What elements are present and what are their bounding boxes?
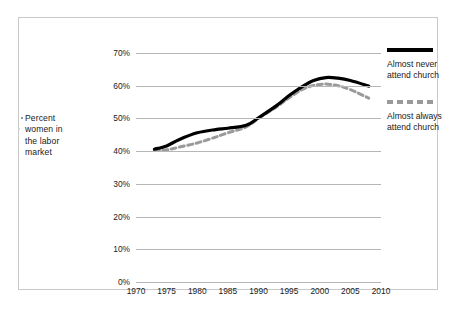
y-tick-label: 10% (113, 244, 130, 254)
y-axis-title-line-2: women in (25, 124, 87, 135)
series-lines (136, 53, 381, 282)
gridline (136, 282, 381, 283)
gridline (136, 217, 381, 218)
x-tick-label: 1980 (188, 286, 207, 296)
y-tick-label: 50% (113, 113, 130, 123)
gridline (136, 53, 381, 54)
x-tick-label: 1995 (280, 286, 299, 296)
legend-label-almost-always: Almost always attend church (387, 111, 456, 134)
y-tick-label: 60% (113, 81, 130, 91)
y-axis-title-line-1: Percent (25, 113, 87, 124)
page-speckle (18, 128, 20, 130)
legend-entry-almost-always: Almost always attend church (387, 100, 456, 134)
y-tick-label: 70% (113, 48, 130, 58)
x-tick-label: 1975 (157, 286, 176, 296)
x-tick-label: 2000 (310, 286, 329, 296)
gridline (136, 118, 381, 119)
gridline (136, 184, 381, 185)
x-tick-label: 1990 (249, 286, 268, 296)
plot-area: 0%10%20%30%40%50%60%70%19701975198019851… (136, 53, 381, 282)
y-axis-title: Percent women in the labor market (25, 113, 87, 159)
y-axis-title-line-3: the labor (25, 136, 87, 147)
y-tick-label: 40% (113, 146, 130, 156)
legend-swatch-dashed-icon (387, 100, 433, 104)
gridline (136, 86, 381, 87)
bullet-marker (21, 117, 23, 119)
x-tick-label: 1970 (127, 286, 146, 296)
series-line-almost-never (154, 77, 368, 149)
x-tick-label: 2005 (341, 286, 360, 296)
gridline (136, 249, 381, 250)
x-tick-label: 1985 (219, 286, 238, 296)
y-tick-label: 30% (113, 179, 130, 189)
legend-swatch-solid-icon (387, 48, 433, 52)
y-axis-title-line-4: market (25, 147, 87, 158)
legend-entry-almost-never: Almost never attend church (387, 48, 456, 82)
chart-legend: Almost never attend church Almost always… (387, 48, 456, 148)
legend-label-almost-never: Almost never attend church (387, 59, 456, 82)
y-tick-label: 20% (113, 212, 130, 222)
chart-figure: Percent women in the labor market 0%10%2… (18, 17, 438, 290)
gridline (136, 151, 381, 152)
x-tick-label: 2010 (372, 286, 391, 296)
